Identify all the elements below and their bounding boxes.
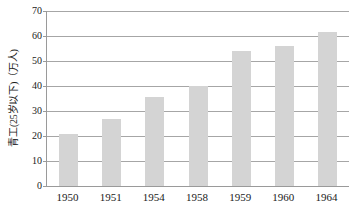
plot-area (46, 11, 349, 187)
bar (189, 86, 208, 186)
y-axis-tick-label: 60 (14, 31, 42, 41)
x-axis-tick-label: 1964 (304, 190, 348, 204)
y-axis-tick-label: 70 (14, 6, 42, 16)
bar (275, 46, 294, 186)
y-axis-tick-label: 40 (14, 81, 42, 91)
bar-chart: 青工(25岁以下)（万人) 010203040506070 1950195119… (0, 0, 354, 213)
bar (232, 51, 251, 186)
x-axis-tick-label: 1960 (261, 190, 305, 204)
x-axis-tick-label: 1954 (132, 190, 176, 204)
bars-group (47, 11, 349, 186)
y-axis-tick-labels: 010203040506070 (14, 0, 42, 213)
y-axis-tick-label: 20 (14, 131, 42, 141)
bar (318, 32, 337, 186)
x-axis-tick-label: 1959 (218, 190, 262, 204)
y-axis-tick-label: 30 (14, 106, 42, 116)
x-axis-tick-label: 1958 (175, 190, 219, 204)
y-axis-tick-mark (43, 186, 47, 187)
x-axis-tick-label: 1951 (89, 190, 133, 204)
y-axis-tick-label: 0 (14, 181, 42, 191)
y-axis-tick-label: 50 (14, 56, 42, 66)
bar (102, 119, 121, 187)
bar (59, 134, 78, 187)
x-axis-tick-label: 1950 (46, 190, 90, 204)
y-axis-tick-label: 10 (14, 156, 42, 166)
bar (145, 97, 164, 186)
x-axis-tick-labels: 1950195119541958195919601964 (46, 190, 348, 206)
